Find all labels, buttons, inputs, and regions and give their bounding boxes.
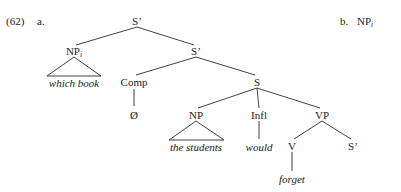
node-s-bar-second-label: S’ [191, 45, 201, 57]
node-s-bar-second: S’ [191, 46, 201, 57]
node-np-i-label: NP [66, 45, 80, 57]
node-np-i-subscript: i [80, 50, 82, 59]
branch-vp-sbarobject [322, 121, 351, 139]
node-np-subject: NP [189, 110, 203, 121]
tree-branch-lines [0, 0, 401, 192]
node-comp: Comp [121, 77, 148, 88]
branch-s-np [198, 88, 257, 108]
terminal-the-students: the students [170, 142, 222, 153]
node-np-i: NPi [66, 46, 82, 60]
branch-sbartop-npi [76, 27, 137, 45]
node-s-bar-object: S’ [348, 141, 358, 152]
terminal-would: would [246, 142, 273, 153]
node-vp: VP [315, 110, 329, 121]
branch-sbartop-sbarsecond [137, 27, 194, 45]
terminal-null-comp: Ø [130, 110, 138, 121]
node-s-label: S [254, 76, 260, 88]
part-a-label: a. [37, 16, 45, 27]
syntax-tree-figure: (62) a. b. NPi S’ NPi S’ Comp S NP Infl … [0, 0, 401, 192]
node-infl-label: Infl [251, 109, 267, 121]
node-s-bar-object-label: S’ [348, 140, 358, 152]
node-s-bar-top: S’ [132, 16, 142, 27]
node-infl: Infl [251, 110, 267, 121]
node-v-label: V [288, 140, 296, 152]
part-b-np-label: NP [357, 15, 371, 27]
part-b-np-node: NPi [357, 16, 373, 30]
part-b-label: b. [340, 16, 348, 27]
node-comp-label: Comp [121, 76, 148, 88]
terminal-forget: forget [279, 174, 305, 185]
example-number: (62) [6, 16, 24, 27]
branch-vp-v [294, 121, 322, 139]
triangle-the-students [169, 121, 224, 140]
branch-sbarsecond-s [196, 57, 255, 75]
node-np-subject-label: NP [189, 109, 203, 121]
part-b-np-subscript: i [371, 20, 373, 29]
node-s: S [254, 77, 260, 88]
branch-s-vp [257, 88, 320, 108]
branch-sbarsecond-comp [136, 57, 196, 75]
terminal-which-book: which book [49, 78, 99, 89]
node-vp-label: VP [315, 109, 329, 121]
node-v: V [288, 141, 296, 152]
node-s-bar-top-label: S’ [132, 15, 142, 27]
branch-s-infl [257, 88, 259, 108]
